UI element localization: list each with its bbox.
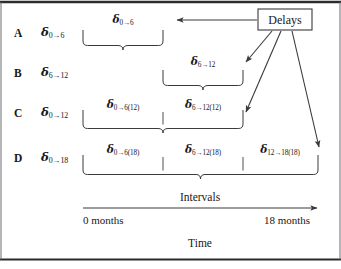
axis-end-label: 18 months xyxy=(264,215,310,226)
delays-arrows xyxy=(177,20,319,147)
row-label-c: δ0→12 xyxy=(41,107,68,120)
diagram-canvas xyxy=(0,0,341,269)
figure-container: A B C D δ0→6 δ6→12 δ0→12 δ0→18 δ0→6 δ6→1… xyxy=(0,0,341,269)
row-letter-d: D xyxy=(14,153,23,165)
axis-start-label: 0 months xyxy=(83,215,124,226)
segment-label-a-1: δ0→6 xyxy=(112,14,133,27)
row-label-d: δ0→18 xyxy=(41,152,68,165)
row-letter-c: C xyxy=(14,108,23,120)
delays-box-label[interactable]: Delays xyxy=(268,13,301,28)
segment-label-d-3: δ12→18(18) xyxy=(260,144,300,157)
intervals-caption: Intervals xyxy=(180,192,220,204)
segment-label-d-1: δ0→6(18) xyxy=(107,144,140,157)
row-label-a: δ0→6 xyxy=(41,27,64,40)
row-letter-b: B xyxy=(14,68,22,80)
segment-label-d-2: δ6→12(18) xyxy=(185,144,221,157)
row-d-brace xyxy=(83,155,318,179)
row-a-brace xyxy=(83,30,163,50)
delays-arrow-to-row-c xyxy=(246,31,281,112)
delays-arrow-to-row-b xyxy=(246,31,272,62)
row-b-brace xyxy=(163,70,243,90)
axis-title: Time xyxy=(188,238,212,250)
segment-label-c-2: δ6→12(12) xyxy=(185,99,221,112)
row-label-b: δ6→12 xyxy=(41,67,68,80)
row-c-brace xyxy=(83,110,243,133)
segment-label-c-1: δ0→6(12) xyxy=(107,99,140,112)
delays-arrow-to-row-d xyxy=(292,31,319,147)
segment-label-b-1: δ6→12 xyxy=(191,56,216,69)
row-letter-a: A xyxy=(14,28,23,40)
